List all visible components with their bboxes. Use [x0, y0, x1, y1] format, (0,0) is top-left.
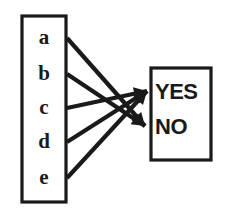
- codomain-item-no: NO: [155, 114, 187, 139]
- codomain-item-yes: YES: [155, 79, 198, 104]
- domain-item-b: b: [38, 61, 50, 85]
- domain-item-d: d: [38, 129, 50, 153]
- edges-layer: [67, 38, 147, 178]
- domain-item-a: a: [39, 25, 50, 49]
- diagram-canvas: abcde YESNO: [0, 0, 230, 219]
- mapping-diagram: abcde YESNO: [0, 0, 230, 219]
- domain-item-c: c: [39, 95, 48, 119]
- domain-item-e: e: [39, 165, 48, 189]
